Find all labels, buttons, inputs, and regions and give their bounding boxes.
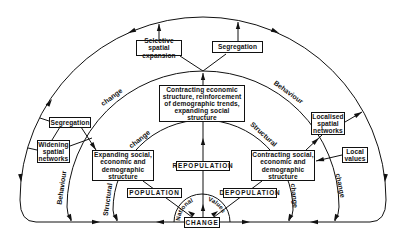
box-contracting-economic-structure: Contracting economic structure, reinforc… <box>159 85 245 122</box>
arrow-icon <box>201 73 205 80</box>
box-change: CHANGE <box>184 217 220 228</box>
arrow-icon <box>127 28 136 35</box>
connector-fork-right <box>203 54 226 71</box>
arrow-icon <box>242 220 250 224</box>
arrow-icon <box>201 204 205 211</box>
box-contracting-social-structure: Contracting social, economic and demogra… <box>251 150 315 181</box>
box-repopulation: REPOPULATION <box>176 161 230 171</box>
connector-segregation-outer <box>40 118 49 121</box>
box-selective-spatial-expansion: Selective spatial expansion <box>136 40 182 56</box>
arrow-icon <box>236 22 240 29</box>
arrow-icon <box>156 220 164 224</box>
arrow-icon <box>383 174 388 182</box>
box-population: POPULATION <box>127 188 182 198</box>
arrow-icon <box>92 220 100 224</box>
arrow-icon <box>157 24 161 31</box>
box-segregation-left: Segregation <box>49 117 91 128</box>
label-change-inner-left: change <box>128 129 152 150</box>
box-local-values: Local values <box>342 147 368 163</box>
label-change-lower-right-outer: change <box>333 173 346 199</box>
arrow-icon <box>18 174 23 182</box>
box-widening-spatial-networks: Widening spatial networks <box>37 140 70 163</box>
connector-widening-arc <box>70 138 92 146</box>
arrow-icon <box>354 110 363 118</box>
connector-widening-outer <box>28 148 37 150</box>
diagram-canvas: change Behaviour change Structural Behav… <box>0 0 407 240</box>
connector-segregation-widening <box>52 127 60 140</box>
box-segregation-top: Segregation <box>212 41 263 53</box>
label-behaviour-lower-left: Behaviour <box>56 170 68 205</box>
arrow-icon <box>316 157 325 163</box>
connector-change-population <box>143 181 192 217</box>
arrow-icon <box>201 138 205 145</box>
connector-fork-left <box>180 56 203 71</box>
label-change-outer-left: change <box>100 87 125 108</box>
box-expanding-social-structure: Expanding social, economic and demograph… <box>92 150 154 181</box>
box-localised-spatial-networks: Localised spatial networks <box>311 112 345 135</box>
label-structural-lower-left: Structural <box>102 183 114 217</box>
arrow-icon <box>271 28 280 35</box>
box-depopulation: DEPOPULATION <box>223 188 277 198</box>
arrow-icon <box>310 220 318 224</box>
label-change-lower-right-inner: change <box>289 183 300 208</box>
